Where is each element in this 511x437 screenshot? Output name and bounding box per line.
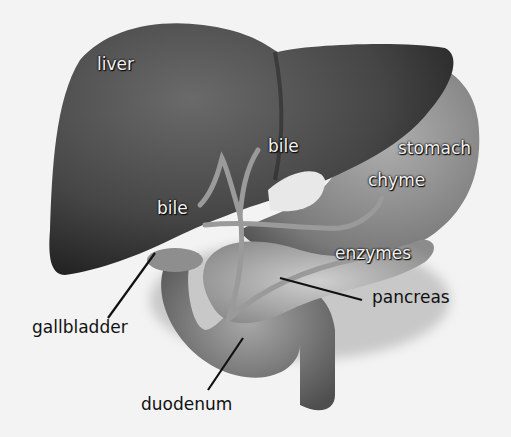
label-stomach: stomach bbox=[398, 140, 471, 157]
label-bile-upper: bile bbox=[268, 138, 299, 155]
gallbladder-shape bbox=[147, 248, 203, 272]
label-liver: liver bbox=[97, 56, 134, 73]
label-bile-lower: bile bbox=[157, 200, 188, 217]
label-chyme: chyme bbox=[368, 172, 425, 189]
label-enzymes: enzymes bbox=[335, 245, 411, 262]
digestive-organs-diagram: liver bile bile stomach chyme enzymes pa… bbox=[0, 0, 511, 437]
label-gallbladder: gallbladder bbox=[32, 319, 128, 336]
gallbladder-leader bbox=[108, 253, 155, 318]
label-duodenum: duodenum bbox=[141, 396, 232, 413]
organ-illustration bbox=[0, 0, 511, 437]
label-pancreas: pancreas bbox=[372, 289, 450, 306]
